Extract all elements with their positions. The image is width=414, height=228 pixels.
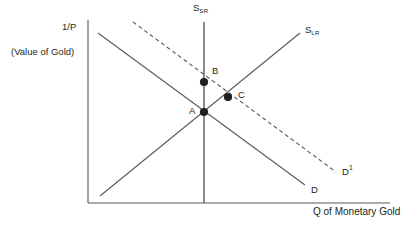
curve-label-superscript: 1 (349, 164, 353, 171)
curve-label-s-lr: SLR (305, 25, 320, 35)
y-axis-label-secondary: (Value of Gold) (11, 47, 74, 57)
curve-label-text: D (342, 166, 349, 177)
supply-demand-figure: 1/P (Value of Gold) Q of Monetary Gold S… (0, 0, 414, 228)
x-axis-label: Q of Monetary Gold (313, 207, 400, 217)
curve-label-subscript: LR (311, 29, 319, 36)
curve-label-d1: D1 (342, 166, 353, 177)
curve-label-d: D (311, 185, 318, 195)
curve-label-text: D (311, 184, 318, 195)
point-label-C: C (238, 90, 245, 100)
y-axis-label-primary: 1/P (62, 22, 76, 32)
point-label-B: B (212, 66, 218, 76)
equilibrium-point-C (224, 93, 232, 101)
curve-label-s-sr: SSR (193, 3, 208, 13)
point-label-A: A (189, 106, 195, 116)
shifted-demand-curve (133, 22, 336, 172)
diagram-canvas (0, 0, 414, 228)
long-run-supply-curve (100, 33, 300, 196)
equilibrium-point-A (200, 108, 208, 116)
curve-label-subscript: SR (199, 7, 208, 14)
curves-group (98, 22, 336, 203)
equilibrium-point-B (200, 78, 208, 86)
